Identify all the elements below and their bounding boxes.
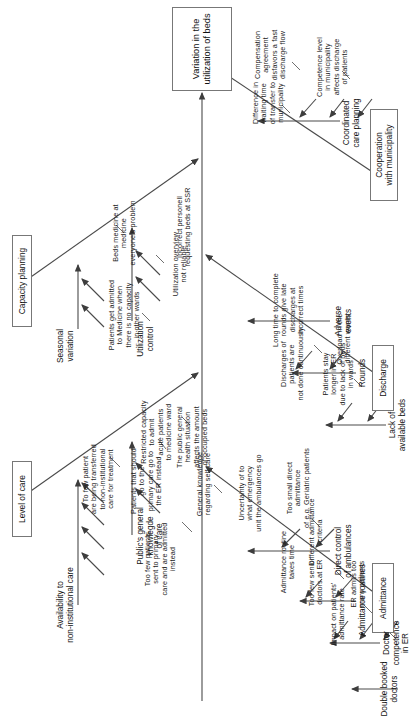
bone-label-availability: Availability to non-institutional care xyxy=(56,557,75,653)
category-box-capacity-planning[interactable]: Capacity planning xyxy=(12,235,32,327)
cause-incorrect-personell: Incorrect personell requesting beds at S… xyxy=(176,181,193,273)
tick-patients-admitted-medicine xyxy=(82,305,104,327)
tick-beds-medicine xyxy=(82,279,104,301)
leader-too-few-primary xyxy=(182,522,192,532)
leader-general-knowledge xyxy=(214,485,222,493)
bone-label-rounds: Rounds xyxy=(358,347,368,399)
cause-beds-medicine: Beds medicine at medicine everyone's pro… xyxy=(112,191,137,275)
tick-difference-waiting xyxy=(300,99,316,117)
leader-utilization-overview xyxy=(156,255,164,263)
category-box-cooperation[interactable]: Cooperation with municipality xyxy=(370,109,398,201)
cause-impact-admittance-rate: Impact on patients' admittance rate xyxy=(330,573,347,655)
category-label-discharge: Discharge xyxy=(378,359,388,397)
cause-too-few-senior: Too few senior doctors at ER xyxy=(308,545,325,619)
cause-admittance-routine-time: Admittance routine takes time xyxy=(280,521,297,603)
bone-label-double-booked: Double booked doctors xyxy=(380,655,399,723)
cause-er-admits-too-many: ER admits too many patients xyxy=(350,547,367,621)
category-label-cooperation: Cooperation with municipality xyxy=(374,125,394,186)
tick-too-few-primary xyxy=(82,553,104,575)
cause-compensation: Compensation agreement disfavors a fast … xyxy=(254,17,288,93)
cause-overload-wards: Overload in the different wards xyxy=(336,301,353,377)
category-box-level-of-care[interactable]: Level of care xyxy=(12,461,32,537)
category-label-level-of-care: Level of care xyxy=(17,475,27,523)
cause-patients-admitted-medicine: Patients get admitted to Medicine when t… xyxy=(108,271,142,359)
bone-label-lack-of-beds: Lack of available beds xyxy=(388,389,407,461)
tick-patients-should-go xyxy=(82,527,104,549)
cause-uncertainty-ambulances: Uncertainty of to what emergency unit th… xyxy=(238,447,263,539)
effect-label: Variation in the utilization of beds xyxy=(191,14,213,85)
leader-compensation xyxy=(292,62,300,70)
category-label-capacity-planning: Capacity planning xyxy=(17,248,27,315)
effect-box: Variation in the utilization of beds xyxy=(172,7,232,91)
cause-too-few-primary: Too few patients sent to primary care an… xyxy=(144,515,178,603)
cause-public-health: The public general health situation affe… xyxy=(176,395,210,479)
bone-label-seasonal-variation: Seasonal variation xyxy=(56,319,75,373)
cause-long-time-rounds: Long time to complete rounds give late d… xyxy=(272,263,306,357)
cause-to-few-transferred: To few patient are being transferred to … xyxy=(82,433,116,525)
cause-restricted-capacity: Restricted capacity to admit acute patie… xyxy=(140,391,174,473)
cause-competence-level: Competence level in municipality affects… xyxy=(316,29,350,105)
